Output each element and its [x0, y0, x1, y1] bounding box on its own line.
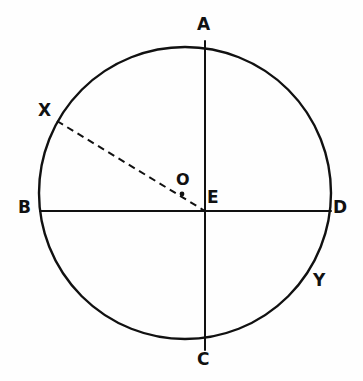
vertex-label-b: B — [18, 199, 31, 216]
vertex-label-d: D — [333, 199, 347, 216]
geometry-figure: A B C D X Y O E — [0, 0, 363, 381]
circle-shape — [39, 47, 331, 339]
vertex-label-a: A — [197, 16, 210, 33]
vertex-label-e: E — [207, 189, 219, 206]
vertex-label-y: Y — [313, 272, 325, 289]
segment-xe-dashed-line — [57, 121, 205, 211]
vertex-label-x: X — [38, 102, 51, 119]
vertex-label-o: O — [176, 172, 190, 188]
vertex-label-c: C — [197, 351, 209, 368]
center-point-dot — [180, 192, 185, 197]
diagram-canvas — [0, 0, 363, 381]
